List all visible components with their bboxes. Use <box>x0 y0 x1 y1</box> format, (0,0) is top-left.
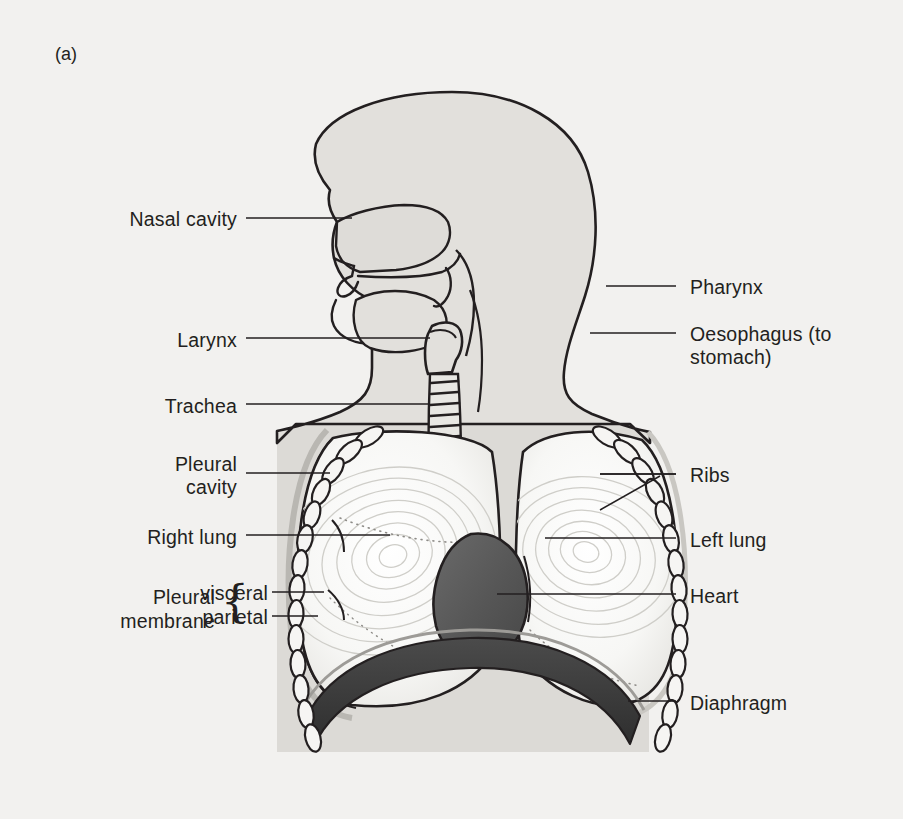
figure-canvas: (a) <box>0 0 903 819</box>
label-left-lung: Left lung <box>690 529 767 552</box>
label-pleural-cavity: Pleural cavity <box>37 453 237 499</box>
head-and-neck-outline <box>277 92 650 443</box>
label-diaphragm: Diaphragm <box>690 692 787 715</box>
pleural-membrane-brace: { <box>221 580 249 624</box>
label-right-lung: Right lung <box>37 526 237 549</box>
label-ribs: Ribs <box>690 464 730 487</box>
label-pharynx: Pharynx <box>690 276 763 299</box>
label-trachea: Trachea <box>37 395 237 418</box>
label-larynx: Larynx <box>37 329 237 352</box>
label-heart: Heart <box>690 585 739 608</box>
label-oesophagus: Oesophagus (to stomach) <box>690 323 832 369</box>
pleural-membrane-word-1: Pleural <box>95 586 215 609</box>
pleural-membrane-word-2: membrane <box>72 610 215 633</box>
label-nasal-cavity: Nasal cavity <box>37 208 237 231</box>
